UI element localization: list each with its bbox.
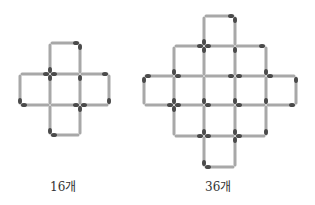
matchstick-head [289, 103, 295, 107]
matchstick-head [73, 41, 79, 45]
matchstick-head [172, 69, 176, 75]
matchstick-head [51, 133, 57, 137]
matchstick-head [48, 128, 52, 134]
matchstick-head [264, 129, 268, 135]
matchstick-head [167, 103, 173, 107]
matchstick-head [202, 47, 206, 53]
matchstick-head [172, 106, 176, 112]
matchstick-head [236, 134, 242, 138]
matchstick-head [233, 47, 237, 53]
matchstick-head [228, 14, 234, 18]
matchstick-head [228, 74, 234, 78]
matchstick-diagram [0, 0, 315, 205]
matchstick-head [175, 103, 181, 107]
matchstick-head [264, 69, 268, 75]
matchstick-head [81, 103, 87, 107]
matchstick-head [102, 72, 108, 76]
matchstick-head [233, 98, 237, 104]
matchstick-head [78, 75, 82, 81]
matchstick-head [205, 103, 211, 107]
matchstick-head [236, 103, 242, 107]
matchstick-head [107, 98, 111, 104]
matchstick-head [202, 160, 206, 166]
matchstick-head [142, 77, 146, 83]
matchstick-head [233, 129, 237, 135]
matchstick-head [78, 106, 82, 112]
matchstick-head [172, 98, 176, 104]
matchstick-head [202, 129, 206, 135]
matchstick-head [48, 67, 52, 73]
matchstick-head [236, 74, 242, 78]
matchstick-head [51, 72, 57, 76]
matchstick-head [175, 74, 181, 78]
figure-small-cross [18, 41, 111, 137]
matchstick-head [18, 98, 22, 104]
matchstick-head [233, 137, 237, 143]
matchstick-head [233, 17, 237, 23]
matchstick-head [145, 74, 151, 78]
figure-large-diamond [142, 14, 298, 169]
matchstick-head [294, 77, 298, 83]
matchstick-head [202, 98, 206, 104]
matchstick-head [264, 98, 268, 104]
matchstick-head [48, 75, 52, 81]
matchstick-head [21, 103, 27, 107]
matchstick-head [197, 134, 203, 138]
matchstick-head [267, 74, 273, 78]
label-large-figure-count: 36개 [205, 180, 231, 194]
matchstick-head [73, 103, 79, 107]
label-small-figure-count: 16개 [50, 180, 76, 194]
matchstick-head [202, 39, 206, 45]
matchstick-head [78, 44, 82, 50]
matchstick-head [43, 72, 49, 76]
matchstick-head [259, 44, 265, 48]
matchstick-head [205, 44, 211, 48]
matchstick-head [205, 165, 211, 169]
matchstick-head [205, 134, 211, 138]
matchstick-head [197, 44, 203, 48]
